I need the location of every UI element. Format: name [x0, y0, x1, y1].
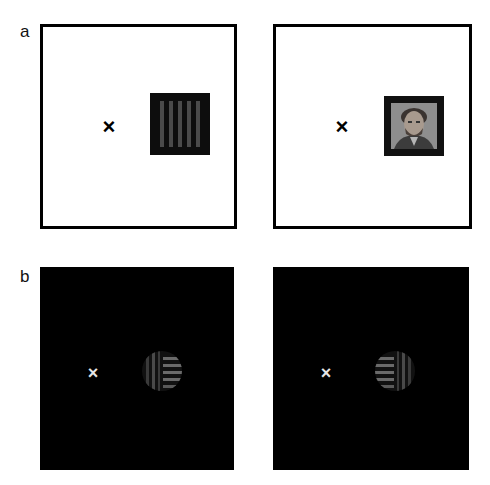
panel-a-left-frame: ×: [40, 24, 237, 229]
fixation-cross: ×: [336, 116, 349, 138]
fixation-cross: ×: [103, 116, 116, 138]
vertical-grating-stimulus: [150, 93, 210, 155]
vertical-stripes-icon: [150, 93, 210, 155]
panel-b-left-frame: ×: [40, 267, 234, 470]
fixation-cross: ×: [321, 364, 332, 382]
panel-a-right-frame: ×: [273, 24, 472, 229]
face-photo-icon: [384, 96, 444, 156]
panel-b-right-frame: ×: [273, 267, 469, 470]
face-stimulus: [384, 96, 444, 156]
split-grating-disc-icon: [373, 349, 417, 393]
fixation-cross: ×: [88, 364, 99, 382]
split-grating-disc-icon: [140, 349, 184, 393]
panel-label-a: a: [20, 23, 29, 40]
panel-label-b: b: [20, 268, 29, 285]
